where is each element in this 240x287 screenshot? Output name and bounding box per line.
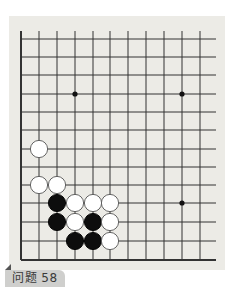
star-point — [179, 200, 184, 205]
black-stone[interactable] — [48, 213, 65, 230]
white-stone[interactable] — [30, 176, 47, 193]
black-stone[interactable] — [48, 194, 65, 211]
problem-label: 问题 58 — [5, 270, 65, 287]
star-point — [72, 91, 77, 96]
white-stone[interactable] — [84, 194, 101, 211]
white-stone[interactable] — [48, 176, 65, 193]
black-stone[interactable] — [84, 232, 101, 249]
black-stone[interactable] — [84, 213, 101, 230]
go-board-grid[interactable] — [0, 0, 240, 287]
white-stone[interactable] — [66, 213, 83, 230]
white-stone[interactable] — [30, 140, 47, 157]
white-stone[interactable] — [66, 194, 83, 211]
star-point — [179, 91, 184, 96]
black-stone[interactable] — [66, 232, 83, 249]
white-stone[interactable] — [101, 232, 118, 249]
white-stone[interactable] — [101, 194, 118, 211]
white-stone[interactable] — [101, 213, 118, 230]
